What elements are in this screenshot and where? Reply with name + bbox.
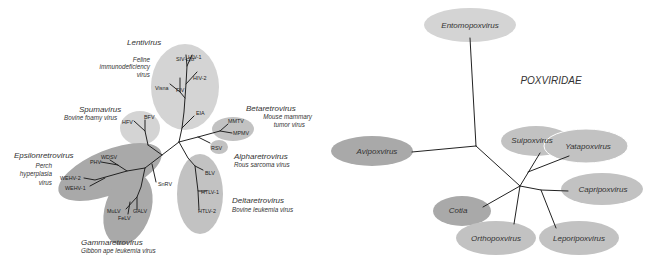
genus-epsilonretrovirus: Epsilonretrovirus xyxy=(14,151,74,160)
tip-blv: BLV xyxy=(205,170,215,176)
genus-yatapoxvirus: Yatapoxvirus xyxy=(565,142,611,151)
tip-eia: EIA xyxy=(196,110,205,116)
example-lentivirus-3: virus xyxy=(137,71,151,78)
example-betaretrovirus-2: tumor virus xyxy=(274,121,306,128)
example-lentivirus-2: immunodeficiency xyxy=(100,63,151,71)
genus-entomopoxvirus: Entomopoxvirus xyxy=(441,21,498,30)
tip-galv: GALV xyxy=(133,208,147,214)
genus-avipoxvirus: Avipoxvirus xyxy=(356,147,398,156)
example-deltaretrovirus: Bovine leukemia virus xyxy=(232,206,294,213)
retroviridae-tree: SIV-cpz HIV-1 HIV-2 FIV Visna EIA BFV HF… xyxy=(14,38,313,255)
tip-wehv-2: WEHV-2 xyxy=(60,175,81,181)
phylogeny-figure: SIV-cpz HIV-1 HIV-2 FIV Visna EIA BFV HF… xyxy=(0,0,653,264)
example-alpharetrovirus: Rous sarcoma virus xyxy=(234,161,290,168)
tip-htlv-1: HTLV-1 xyxy=(201,189,219,195)
genus-cotia: Cotia xyxy=(449,206,468,215)
genus-alpharetrovirus: Alpharetrovirus xyxy=(233,152,288,161)
poxviridae-tree: Entomopoxvirus Avipoxvirus Suipoxvirus Y… xyxy=(331,8,643,255)
genus-lentivirus: Lentivirus xyxy=(127,38,161,47)
genus-spumavirus: Spumavirus xyxy=(79,105,121,114)
tip-mulv: MuLV xyxy=(107,208,121,214)
tip-hiv-1: HIV-1 xyxy=(188,54,201,60)
example-epsilonretrovirus-3: virus xyxy=(39,179,53,186)
tip-snrv: SnRV xyxy=(158,181,172,187)
tip-rsv: RSV xyxy=(211,145,222,151)
tip-bfv: BFV xyxy=(144,114,155,120)
example-gammaretrovirus: Gibbon ape leukemia virus xyxy=(81,247,156,255)
genus-deltaretrovirus: Deltaretrovirus xyxy=(232,196,284,205)
tip-phv: PHV xyxy=(90,159,101,165)
tip-mpmv: MPMV xyxy=(233,130,250,136)
tip-hiv-2: HIV-2 xyxy=(193,75,206,81)
tip-visna: Visna xyxy=(155,85,168,91)
tip-felv: FeLV xyxy=(118,215,131,221)
tip-htlv-2: HTLV-2 xyxy=(198,208,216,214)
example-lentivirus-1: Feline xyxy=(133,56,151,63)
genus-betaretrovirus: Betaretrovirus xyxy=(246,104,296,113)
tip-hfv: HFV xyxy=(122,119,133,125)
tip-wehv-1: WEHV-1 xyxy=(65,185,86,191)
tip-wdsv: WDSV xyxy=(101,154,118,160)
genus-leporipoxvirus: Leporipoxvirus xyxy=(553,234,605,243)
example-epsilonretrovirus-1: Perch xyxy=(36,162,53,169)
example-betaretrovirus-1: Mouse mammary xyxy=(263,113,312,121)
genus-gammaretrovirus: Gammaretrovirus xyxy=(81,238,143,247)
example-spumavirus: Bovine foamy virus xyxy=(64,114,118,122)
genus-suipoxvirus: Suipoxvirus xyxy=(511,136,552,145)
poxviridae-title: POXVIRIDAE xyxy=(520,75,581,86)
example-epsilonretrovirus-2: hyperplasia xyxy=(20,170,53,178)
genus-capripoxvirus: Capripoxvirus xyxy=(579,185,628,194)
tip-mmtv: MMTV xyxy=(228,118,244,124)
tip-fiv: FIV xyxy=(176,87,185,93)
genus-orthopoxvirus: Orthopoxvirus xyxy=(471,234,521,243)
